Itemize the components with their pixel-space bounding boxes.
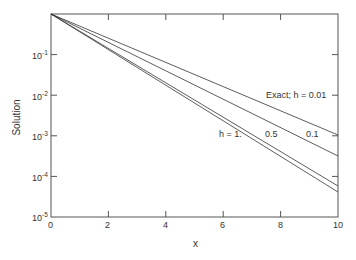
annotation-h1: h = 1. (219, 129, 242, 139)
x-axis-label: x (193, 238, 198, 249)
y-tick-label: 10-1 (32, 49, 48, 61)
x-tick-label: 8 (278, 220, 283, 230)
x-tick-label: 4 (163, 220, 168, 230)
y-ticks (51, 55, 338, 177)
line-h-1 (51, 14, 338, 192)
x-tick-label: 10 (333, 220, 343, 230)
x-ticks (108, 14, 280, 217)
annotation-exact: Exact; h = 0.01 (266, 90, 326, 100)
y-tick-label: 10-5 (32, 211, 48, 223)
x-tick-label: 0 (48, 220, 53, 230)
series-lines (51, 14, 338, 192)
y-axis-label: Solution (11, 99, 22, 135)
y-tick-label: 10-3 (32, 130, 48, 142)
annotation-h01: 0.1 (306, 129, 319, 139)
plot-frame (51, 14, 338, 217)
annotation-h05: 0.5 (265, 129, 278, 139)
y-tick-label: 10-4 (32, 171, 48, 183)
x-tick-label: 2 (105, 220, 110, 230)
y-tick-label: 10-2 (32, 90, 48, 102)
plot-area (0, 0, 356, 260)
x-tick-label: 6 (220, 220, 225, 230)
line-h-0.5 (51, 14, 338, 186)
line-h-0.1 (51, 14, 338, 156)
line-exact (51, 14, 338, 135)
